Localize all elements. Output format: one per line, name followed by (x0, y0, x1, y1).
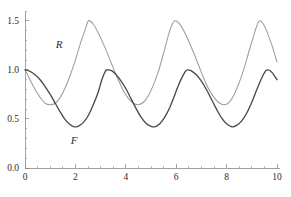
x-tick-label: 10 (272, 172, 282, 182)
y-tick-label: 1.5 (7, 16, 19, 26)
y-axis-major-ticks (25, 21, 29, 168)
y-tick-label: 1.0 (7, 65, 19, 75)
series-curves (25, 21, 277, 127)
series-label-r: R (55, 38, 63, 50)
x-axis-tick-labels: 0246810 (23, 172, 282, 182)
chart-figure: 0246810 0.00.51.01.5 RF (0, 0, 291, 197)
x-tick-label: 0 (23, 172, 28, 182)
series-inline-labels: RF (55, 38, 78, 146)
y-axis-tick-labels: 0.00.51.01.5 (7, 16, 19, 173)
axes-group (25, 11, 280, 168)
series-curve-r (25, 21, 277, 105)
oscillation-line-chart: 0246810 0.00.51.01.5 RF (0, 0, 291, 197)
series-label-f: F (70, 134, 78, 146)
x-tick-label: 2 (73, 172, 78, 182)
y-tick-label: 0.5 (7, 114, 19, 124)
y-tick-label: 0.0 (7, 163, 19, 173)
x-tick-label: 8 (224, 172, 229, 182)
x-tick-label: 4 (123, 172, 128, 182)
x-tick-label: 6 (174, 172, 179, 182)
series-curve-f (25, 70, 277, 127)
